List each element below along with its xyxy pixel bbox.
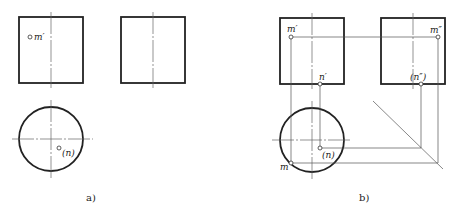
panel-b-point-n-front [318,82,322,86]
panel-b-label-n-front: n′ [319,72,327,82]
panel-a-caption: a) [86,192,96,203]
panel-a-label-m-front: m′ [34,32,45,42]
panel-b: m′ n′ m″ (n″) (n) m b) [272,13,445,203]
panel-b-label-m-front: m′ [287,24,298,34]
panel-b-label-m-top: m [280,162,289,172]
panel-a-point-m-front [28,35,32,39]
panel-a: m′ (n) a) [12,12,185,203]
panel-b-label-n-side: (n″) [410,72,427,82]
panel-b-label-n-top: (n) [322,150,335,160]
panel-b-point-m-front [289,35,293,39]
panel-b-point-m-top [289,161,293,165]
panel-b-point-m-side [436,35,440,39]
panel-a-point-n-top [57,146,61,150]
panel-b-caption: b) [359,192,369,203]
panel-b-point-n-side [419,82,423,86]
panel-b-label-m-side: m″ [430,25,443,35]
panel-a-label-n-top: (n) [62,148,75,158]
miter-line-45deg [373,101,443,169]
orthographic-projection-drawing: m′ (n) a) [0,0,454,213]
